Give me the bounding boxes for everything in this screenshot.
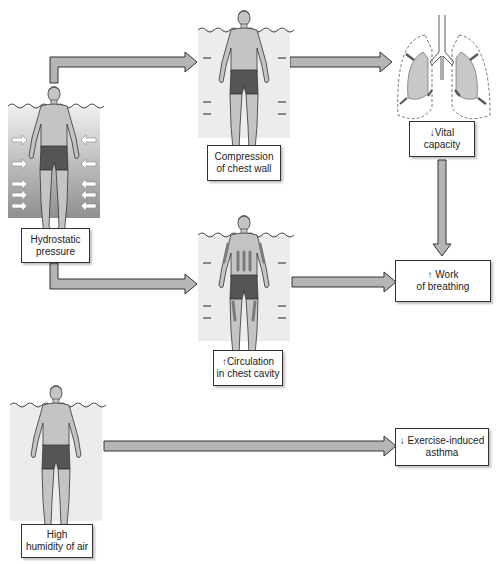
node-humidity-line2: humidity of air	[26, 541, 88, 553]
figure-hydrostatic-swimmer	[8, 87, 104, 233]
node-circulation-chest-cavity: ↑Circulation in chest cavity	[213, 350, 283, 386]
node-exercise-induced-asthma: ↓ Exercise-induced asthma	[395, 428, 489, 466]
arrow-circulation-to-work	[292, 272, 396, 292]
node-asthma-line2: asthma	[426, 447, 459, 459]
node-compression-line1: Compression	[215, 151, 274, 163]
node-vital-line2: capacity	[424, 139, 461, 151]
figure-compression-swimmer	[198, 11, 294, 157]
arrow-compression-to-vital	[290, 52, 392, 72]
arrow-hydrostatic-to-circulation	[50, 263, 197, 294]
node-humidity-line1: High	[47, 529, 68, 541]
node-work-line2: of breathing	[417, 281, 470, 293]
arrow-hydrostatic-to-compression	[50, 52, 197, 83]
node-asthma-line1: ↓ Exercise-induced	[400, 435, 484, 447]
node-vital-capacity: ↓Vital capacity	[409, 121, 475, 157]
node-hydrostatic-pressure: Hydrostatic pressure	[21, 228, 90, 263]
arrow-vital-to-work	[433, 160, 451, 256]
figure-circulation-swimmer	[198, 216, 294, 362]
node-work-line1: ↑ Work	[428, 269, 459, 281]
node-hydrostatic-line1: Hydrostatic	[30, 234, 80, 246]
arrow-humidity-to-asthma	[104, 436, 396, 456]
node-vital-line1: ↓Vital	[430, 127, 454, 139]
node-circulation-line1: ↑Circulation	[222, 356, 274, 368]
figure-lungs	[398, 15, 490, 119]
node-circulation-line2: in chest cavity	[217, 368, 280, 380]
node-compression-line2: of chest wall	[216, 163, 271, 175]
figure-humidity-swimmer	[10, 386, 106, 532]
node-work-of-breathing: ↑ Work of breathing	[395, 260, 491, 302]
node-compression-chest-wall: Compression of chest wall	[207, 145, 281, 181]
node-high-humidity: High humidity of air	[21, 524, 93, 558]
node-hydrostatic-line2: pressure	[36, 246, 75, 258]
